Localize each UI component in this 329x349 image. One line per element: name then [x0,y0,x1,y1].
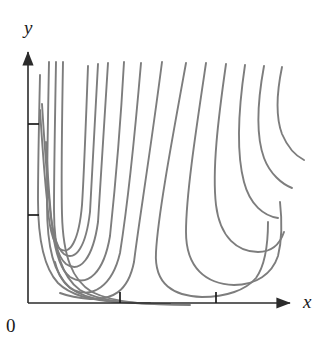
level-curve [258,66,292,188]
level-curve [62,62,190,305]
level-curves-group [38,62,304,305]
y-axis-label: y [24,18,32,37]
origin-label: 0 [6,316,16,335]
level-curve [239,65,278,218]
plot-canvas [0,0,329,349]
level-curve [215,64,284,252]
x-axis-label: x [303,292,311,311]
level-curve [156,63,268,297]
level-curve [60,62,162,299]
level-curve [278,67,305,160]
level-curves-figure: y x 0 [0,0,329,349]
level-curve [38,75,120,302]
axis-ticks-group [28,124,216,303]
